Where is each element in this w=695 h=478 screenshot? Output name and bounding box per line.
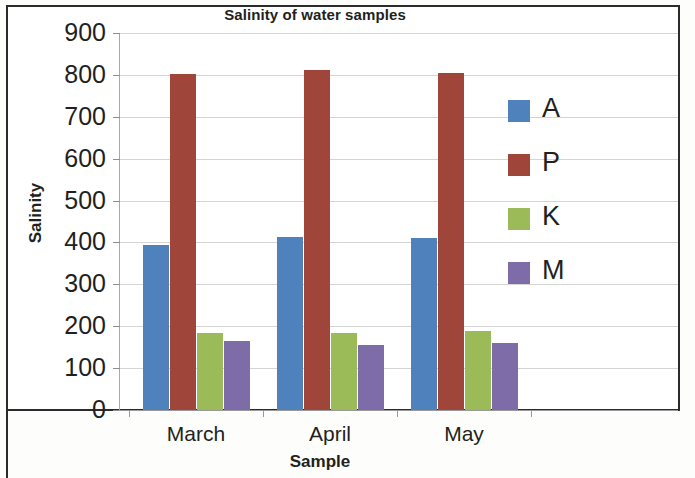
y-tick-label: 600 — [40, 146, 106, 171]
bar-k-march — [197, 333, 223, 410]
bar-p-may — [438, 73, 464, 410]
value-axis-line — [119, 33, 120, 411]
y-tick-label: 700 — [40, 104, 106, 129]
legend-label: M — [542, 254, 565, 286]
bar-p-march — [170, 74, 196, 410]
axis-tick — [113, 33, 120, 34]
gridline — [120, 33, 678, 34]
y-tick-label: 0 — [40, 397, 106, 422]
bar-m-april — [358, 345, 384, 410]
legend-item-a[interactable]: A — [508, 92, 628, 146]
bar-m-march — [224, 341, 250, 410]
y-tick-label: 200 — [40, 313, 106, 338]
legend-swatch-icon — [508, 262, 530, 284]
axis-tick — [113, 368, 120, 369]
legend-swatch-icon — [508, 154, 530, 176]
axis-tick — [113, 410, 120, 411]
category-label-april: April — [260, 422, 400, 446]
axis-tick — [113, 159, 120, 160]
axis-tick — [113, 75, 120, 76]
y-tick-label: 900 — [40, 20, 106, 45]
legend-swatch-icon — [508, 208, 530, 230]
gridline — [120, 410, 678, 411]
y-tick-labels: 9008007006005004003002001000 — [36, 0, 106, 420]
bar-m-may — [492, 343, 518, 410]
axis-tick — [113, 284, 120, 285]
legend-label: P — [542, 146, 560, 178]
bar-a-april — [277, 237, 303, 410]
chart-title: Salinity of water samples — [120, 6, 510, 23]
gridline — [120, 75, 678, 76]
category-label-may: May — [394, 422, 534, 446]
legend-item-m[interactable]: M — [508, 254, 628, 308]
x-axis-title: Sample — [120, 452, 520, 472]
y-tick-label: 400 — [40, 229, 106, 254]
y-tick-label: 300 — [40, 271, 106, 296]
legend-item-k[interactable]: K — [508, 200, 628, 254]
legend: APKM — [508, 92, 628, 308]
legend-item-p[interactable]: P — [508, 146, 628, 200]
bar-a-march — [143, 245, 169, 410]
y-tick-label: 800 — [40, 62, 106, 87]
category-tick — [263, 410, 264, 417]
axis-tick — [113, 242, 120, 243]
frame-left-edge — [6, 411, 8, 478]
scanned-page: Salinity of water samples Salinity Sampl… — [0, 0, 695, 478]
y-tick-label: 500 — [40, 188, 106, 213]
category-tick — [129, 410, 130, 417]
category-tick — [531, 410, 532, 417]
bar-a-may — [411, 238, 437, 410]
axis-tick — [113, 326, 120, 327]
category-label-march: March — [126, 422, 266, 446]
gridline — [120, 326, 678, 327]
bar-k-may — [465, 331, 491, 410]
bar-p-april — [304, 70, 330, 410]
axis-tick — [113, 201, 120, 202]
legend-label: K — [542, 200, 560, 232]
y-tick-label: 100 — [40, 355, 106, 380]
legend-label: A — [542, 92, 560, 124]
bar-k-april — [331, 333, 357, 410]
category-tick — [397, 410, 398, 417]
legend-swatch-icon — [508, 100, 530, 122]
axis-tick — [113, 117, 120, 118]
